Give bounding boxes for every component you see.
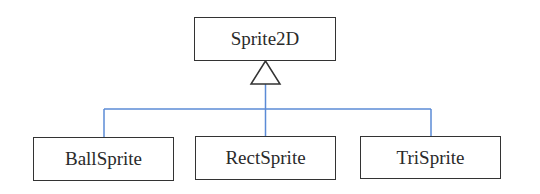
class-box-rectsprite: RectSprite [195,136,336,180]
class-label: BallSprite [65,148,142,170]
class-label: RectSprite [225,147,305,169]
class-box-ballsprite: BallSprite [33,137,174,181]
class-label: TriSprite [397,147,465,169]
inheritance-arrow-icon [251,61,280,84]
class-box-sprite2d: Sprite2D [194,17,336,61]
class-box-trisprite: TriSprite [360,136,501,179]
class-label: Sprite2D [231,28,300,50]
